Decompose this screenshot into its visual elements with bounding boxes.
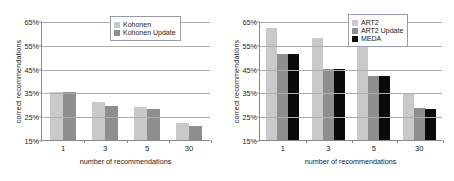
y-axis-tick-label: 55% — [25, 41, 39, 50]
x-axis-tick-mark — [443, 140, 444, 143]
y-axis-tick-label: 65% — [243, 18, 257, 27]
legend-color-swatch — [352, 28, 358, 34]
x-axis-tick-label: 5 — [126, 140, 168, 153]
y-axis-tick-mark — [39, 69, 42, 70]
y-axis-tick-mark — [257, 141, 260, 142]
legend-item: ART2 — [352, 19, 403, 26]
bar — [134, 107, 147, 140]
legend-label: MEDA — [361, 35, 381, 42]
y-axis-tick-label: 35% — [25, 89, 39, 98]
y-axis-tick-label: 55% — [243, 41, 257, 50]
kohonen-chart-panel: correct recommendations 13530 15%25%35%4… — [0, 0, 222, 181]
y-axis-tick-mark — [257, 93, 260, 94]
x-axis-tick-label: 3 — [306, 140, 352, 153]
legend-item: MEDA — [352, 35, 403, 42]
y-axis-tick-mark — [39, 22, 42, 23]
bar-group — [260, 22, 306, 140]
y-axis-tick-mark — [257, 117, 260, 118]
legend-color-swatch — [114, 22, 120, 28]
gridline — [42, 117, 210, 118]
y-axis-title: correct recommendations — [232, 22, 241, 141]
y-axis-tick-label: 25% — [25, 113, 39, 122]
art2-chart-panel: correct recommendations 13530 15%25%35%4… — [222, 0, 454, 181]
x-axis-tick-mark — [84, 140, 85, 143]
y-axis-tick-mark — [39, 141, 42, 142]
legend-label: ART2 — [361, 19, 379, 26]
legend-label: ART2 Update — [361, 27, 403, 34]
y-axis-tick-label: 15% — [25, 137, 39, 146]
x-axis-tick-mark — [127, 140, 128, 143]
y-axis-tick-label: 15% — [243, 137, 257, 146]
y-axis-tick-mark — [257, 69, 260, 70]
x-axis-title: number of recommendations — [41, 157, 210, 166]
bar — [92, 102, 105, 140]
x-axis-tick-label: 1 — [260, 140, 306, 153]
y-axis-tick-mark — [257, 45, 260, 46]
y-axis-tick-mark — [39, 93, 42, 94]
gridline — [260, 93, 442, 94]
gridline — [42, 46, 210, 47]
x-axis-tick-label: 3 — [84, 140, 126, 153]
gridline — [260, 117, 442, 118]
y-axis-tick-mark — [39, 45, 42, 46]
gridline — [42, 70, 210, 71]
y-axis-tick-label: 65% — [25, 18, 39, 27]
x-axis-tick-label: 30 — [397, 140, 443, 153]
bar — [189, 126, 202, 140]
bar — [414, 108, 425, 140]
x-axis-tick-mark — [211, 140, 212, 143]
legend-color-swatch — [352, 36, 358, 42]
legend-color-swatch — [352, 20, 358, 26]
figure-two-bar-charts: correct recommendations 13530 15%25%35%4… — [0, 0, 454, 181]
bar — [379, 76, 390, 140]
bar — [312, 38, 323, 140]
bar — [147, 109, 160, 140]
x-axis-title: number of recommendations — [259, 157, 442, 166]
chart-legend: KohonenKohonen Update — [110, 16, 181, 41]
gridline — [260, 70, 442, 71]
bar-group — [42, 22, 84, 140]
gridline — [42, 93, 210, 94]
x-axis-tick-label: 30 — [168, 140, 210, 153]
bar — [277, 54, 288, 140]
bar — [288, 54, 299, 140]
bar — [334, 69, 345, 140]
legend-item: Kohonen — [114, 21, 176, 28]
chart-legend: ART2ART2 UpdateMEDA — [348, 14, 408, 47]
legend-label: Kohonen — [123, 21, 151, 28]
x-axis-tick-mark — [169, 140, 170, 143]
x-axis-tick-label: 1 — [42, 140, 84, 153]
legend-item: Kohonen Update — [114, 29, 176, 36]
bar-group — [306, 22, 352, 140]
x-axis-tick-mark — [352, 140, 353, 143]
legend-item: ART2 Update — [352, 27, 403, 34]
y-axis-tick-label: 45% — [25, 65, 39, 74]
y-axis-tick-label: 45% — [243, 65, 257, 74]
legend-color-swatch — [114, 30, 120, 36]
legend-label: Kohonen Update — [123, 29, 176, 36]
y-axis-tick-mark — [39, 117, 42, 118]
x-axis-tick-mark — [306, 140, 307, 143]
bar — [323, 69, 334, 140]
bar — [176, 123, 189, 140]
bar — [368, 76, 379, 140]
x-axis-tick-label: 5 — [351, 140, 397, 153]
y-axis-tick-label: 35% — [243, 89, 257, 98]
x-axis-tick-mark — [397, 140, 398, 143]
y-axis-title: correct recommendations — [14, 22, 23, 141]
bar — [105, 106, 118, 141]
y-axis-tick-label: 25% — [243, 113, 257, 122]
y-axis-tick-mark — [257, 22, 260, 23]
bar — [425, 109, 436, 140]
